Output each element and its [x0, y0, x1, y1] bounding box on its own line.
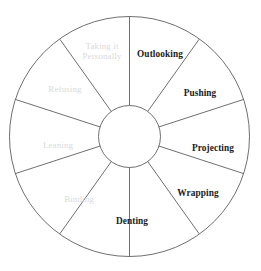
segment-label-taking-it-personally[interactable]: Taking it Personally — [83, 41, 122, 61]
wheel-graphic — [0, 0, 261, 271]
segment-label-line-1: Taking it — [85, 41, 118, 51]
segment-label-refusing[interactable]: Refusing — [48, 84, 81, 94]
segment-label-wrapping[interactable]: Wrapping — [177, 188, 218, 198]
segment-label-leaning[interactable]: Leaning — [43, 140, 73, 150]
segment-label-outlooking[interactable]: Outlooking — [137, 49, 183, 59]
hub-circle — [99, 106, 161, 168]
segment-label-line-2: Personally — [83, 51, 122, 61]
segment-label-projecting[interactable]: Projecting — [192, 143, 234, 153]
segment-label-pushing[interactable]: Pushing — [184, 88, 217, 98]
segment-label-denting[interactable]: Denting — [116, 216, 148, 226]
segment-label-binding[interactable]: Binding — [64, 194, 94, 204]
behaviour-wheel-diagram: Outlooking Pushing Projecting Wrapping D… — [0, 0, 261, 271]
